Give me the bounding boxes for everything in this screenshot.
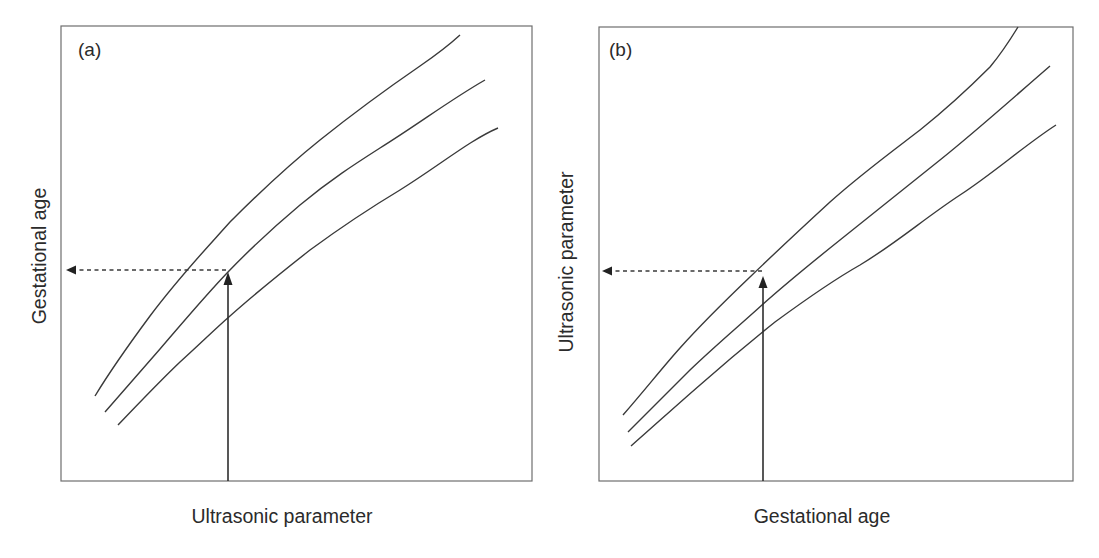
- lower-centile-curve-b: [631, 125, 1056, 446]
- y-axis-label-a: Gestational age: [28, 188, 50, 325]
- median-curve-a: [105, 80, 485, 412]
- panel-label-b: (b): [609, 39, 632, 60]
- median-curve-b: [628, 66, 1050, 432]
- upper-centile-curve-a: [95, 35, 460, 396]
- arrowhead-left-b: [602, 267, 612, 276]
- lower-centile-curve-a: [118, 128, 498, 425]
- upper-centile-curve-b: [623, 27, 1018, 415]
- arrowhead-up-a: [224, 272, 233, 285]
- plot-frame-b: [599, 27, 1073, 481]
- x-axis-label-b: Gestational age: [754, 505, 891, 527]
- panel-b: (b) Ultrasonic parameter Gestational age: [555, 27, 1073, 527]
- arrowhead-left-a: [66, 266, 76, 275]
- arrowhead-up-b: [759, 276, 768, 288]
- x-axis-label-a: Ultrasonic parameter: [192, 505, 373, 527]
- panel-a: (a) Gestational age Ultrasonic parameter: [28, 26, 532, 527]
- y-axis-label-b: Ultrasonic parameter: [555, 171, 577, 352]
- figure-canvas: (a) Gestational age Ultrasonic parameter…: [0, 0, 1099, 558]
- panel-label-a: (a): [78, 39, 101, 60]
